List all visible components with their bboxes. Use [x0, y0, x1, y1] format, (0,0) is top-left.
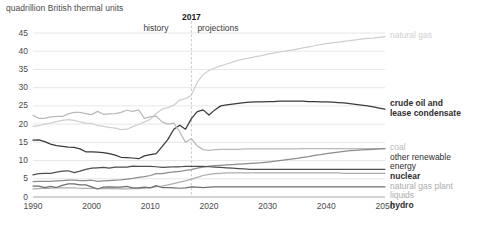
y-axis-tick-15: 15	[4, 137, 28, 147]
era-label-projections: projections	[197, 23, 238, 33]
series-label-nuclear: nuclear	[390, 172, 420, 181]
y-axis-tick-35: 35	[4, 64, 28, 74]
series-label-line: hydro	[390, 201, 414, 210]
y-axis-tick-30: 30	[4, 82, 28, 92]
series-label-line: liquids	[390, 191, 453, 200]
x-axis-tick-2030: 2030	[248, 201, 288, 211]
x-axis-tick-2000: 2000	[72, 201, 112, 211]
y-axis-tick-20: 20	[4, 119, 28, 129]
y-axis-tick-40: 40	[4, 46, 28, 56]
series-label-line: natural gas	[390, 31, 432, 40]
x-axis-tick-2010: 2010	[130, 201, 170, 211]
series-label-natural-gas-plant-liquids: natural gas plantliquids	[390, 182, 453, 201]
y-axis-tick-10: 10	[4, 155, 28, 165]
series-line-other-renewable-energy	[33, 149, 385, 182]
y-axis-tick-25: 25	[4, 100, 28, 110]
series-line-coal	[33, 110, 385, 150]
series-label-line: nuclear	[390, 172, 420, 181]
x-axis-tick-2040: 2040	[306, 201, 346, 211]
x-axis-tick-2020: 2020	[189, 201, 229, 211]
series-line-natural-gas	[33, 37, 385, 130]
series-label-natural-gas: natural gas	[390, 31, 432, 40]
y-axis-tick-0: 0	[4, 192, 28, 202]
series-label-line: lease condensate	[390, 109, 461, 118]
series-label-hydro: hydro	[390, 201, 414, 210]
divider-year-label: 2017	[171, 12, 211, 22]
y-axis-tick-5: 5	[4, 173, 28, 183]
y-axis-tick-45: 45	[4, 28, 28, 38]
era-label-history: history	[143, 23, 168, 33]
chart-root: quadrillion British thermal units 051015…	[0, 0, 483, 225]
series-label-crude-oil-and-lease-condensate: crude oil andlease condensate	[390, 99, 461, 118]
series-label-other-renewable-energy: other renewableenergy	[390, 153, 451, 172]
x-axis-tick-1990: 1990	[13, 201, 53, 211]
